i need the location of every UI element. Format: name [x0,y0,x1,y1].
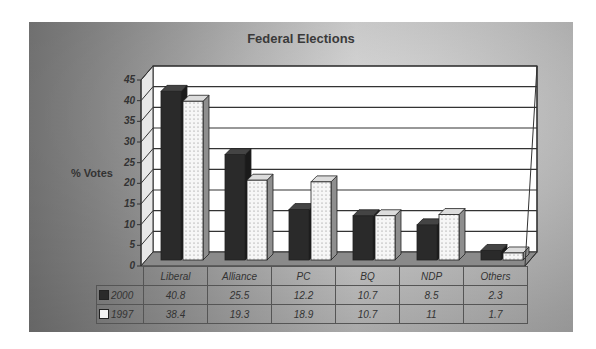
category-label: Others [464,267,528,286]
legend-key-2000: 2000 [97,286,144,305]
y-tick-label: 25 [113,157,135,168]
data-table-header: Liberal Alliance PC BQ NDP Others [97,267,528,286]
table-cell: 8.5 [400,286,464,305]
table-row: 1997 38.4 19.3 18.9 10.7 11 1.7 [97,305,528,324]
y-tick-label: 40 [113,95,135,106]
category-label: Liberal [144,267,208,286]
y-tick-label: 45 [113,74,135,85]
category-label: Alliance [208,267,272,286]
category-label: BQ [336,267,400,286]
y-tick-label: 20 [113,177,135,188]
category-label: PC [272,267,336,286]
table-cell: 25.5 [208,286,272,305]
table-cell: 19.3 [208,305,272,324]
y-axis-title: % Votes [71,167,113,179]
legend-swatch-light [99,309,109,319]
y-tick-label: 30 [113,136,135,147]
table-cell: 10.7 [336,286,400,305]
chart-panel: Federal Elections % Votes 05101520253035… [29,22,573,332]
y-tick-label: 35 [113,115,135,126]
table-cell: 1.7 [464,305,528,324]
table-cell: 10.7 [336,305,400,324]
category-label: NDP [400,267,464,286]
y-tick-label: 5 [113,239,135,250]
y-tick-label: 15 [113,198,135,209]
table-cell: 12.2 [272,286,336,305]
table-cell: 18.9 [272,305,336,324]
legend-swatch-dark [99,290,109,300]
y-tick-label: 10 [113,219,135,230]
data-table: Liberal Alliance PC BQ NDP Others 2000 4… [96,266,528,324]
table-row: 2000 40.8 25.5 12.2 10.7 8.5 2.3 [97,286,528,305]
table-cell: 40.8 [144,286,208,305]
table-cell: 38.4 [144,305,208,324]
legend-key-1997: 1997 [97,305,144,324]
table-cell: 2.3 [464,286,528,305]
table-cell: 11 [400,305,464,324]
